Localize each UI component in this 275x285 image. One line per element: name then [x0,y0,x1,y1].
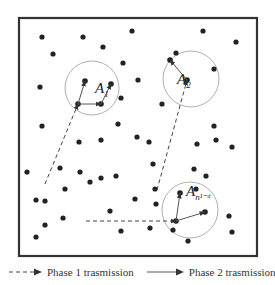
node [170,227,175,232]
node [132,196,137,201]
node [37,84,42,89]
phase1-arrow [45,104,78,184]
cluster-A2-label: A2 [176,71,191,90]
dashed-arrow-icon [8,267,44,277]
node [120,60,125,65]
node [233,39,238,44]
node [107,208,112,213]
node [146,139,151,144]
node [113,173,118,178]
node [200,28,205,33]
node [173,50,178,55]
legend-phase1: Phase 1 trasmission [8,266,134,278]
node [60,215,65,220]
node [203,173,208,178]
cluster-A1-circle [65,61,119,115]
node [229,229,234,234]
legend-phase2-label: Phase 2 trasmission [189,266,275,278]
phase2-arrow [176,212,205,221]
node [100,44,105,49]
node [87,179,92,184]
legend-phase2: Phase 2 trasmission [146,266,275,278]
node [226,213,231,218]
node [39,34,44,39]
node [33,197,38,202]
node [213,137,218,142]
node [62,186,67,191]
legend: Phase 1 trasmission Phase 2 trasmission [0,262,275,282]
node [229,144,234,149]
node [76,139,81,144]
node [80,34,85,39]
node [211,66,216,71]
node [57,165,62,170]
node [153,201,158,206]
node [185,238,190,243]
node [42,198,47,203]
node [98,175,103,180]
phase2-arrow [176,193,180,221]
cluster-labels: A1A2An¹⁻ᵈ [94,71,211,202]
node [77,169,82,174]
node [150,161,155,166]
node [24,169,29,174]
node [147,225,152,230]
phase2-arrow [78,81,85,104]
node [42,222,47,227]
legend-phase1-label: Phase 1 trasmission [47,266,134,278]
node [191,166,196,171]
node [118,95,123,100]
phase1-arrow [157,80,187,190]
node [98,137,103,142]
node [50,51,55,56]
node [129,28,134,33]
network-diagram: A1A2An¹⁻ᵈ [0,0,275,260]
node [33,234,38,239]
node [211,123,216,128]
node [135,77,140,82]
node [118,228,123,233]
node [194,141,199,146]
node [159,101,164,106]
cluster-An-label: An¹⁻ᵈ [185,183,211,202]
node [39,123,44,128]
node [115,121,120,126]
node [134,134,139,139]
cluster-A1-label: A1 [94,80,109,99]
nodes [24,28,238,243]
solid-arrow-icon [146,267,186,277]
